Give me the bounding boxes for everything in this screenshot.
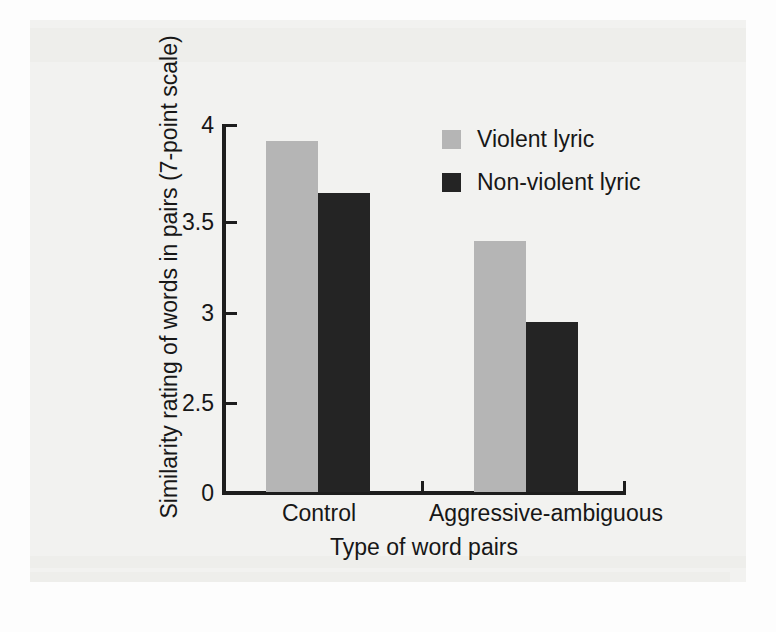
y-axis-title: Similarity rating of words in pairs (7-p…: [156, 99, 183, 519]
x-tick-end: [623, 481, 626, 492]
legend-label-nonviolent-lyric: Non-violent lyric: [477, 169, 641, 196]
y-tick-label-2-5-text: 2.5: [182, 390, 214, 417]
legend: Violent lyric Non-violent lyric: [442, 124, 641, 210]
bar-control-violent-lyric: [266, 141, 318, 492]
x-axis-title: Type of word pairs: [222, 534, 626, 561]
legend-item-nonviolent-lyric: Non-violent lyric: [442, 167, 641, 197]
legend-swatch-violent-lyric: [442, 130, 461, 149]
y-tick-label-3-text: 3: [201, 300, 214, 327]
y-axis-line: [222, 124, 226, 495]
bar-control-nonviolent-lyric: [318, 193, 370, 492]
y-tick-3-5: [226, 221, 237, 224]
x-category-label-aggressive-ambiguous: Aggressive-ambiguous: [408, 500, 684, 527]
scanned-figure-page: 4 3.5 3 2.5 0 Control Aggressive-ambiguo…: [0, 0, 776, 632]
y-tick-label-0-text: 0: [201, 480, 214, 507]
x-category-label-control: Control: [234, 500, 404, 527]
y-tick-2-5: [226, 402, 237, 405]
bar-chart: 4 3.5 3 2.5 0 Control Aggressive-ambiguo…: [0, 0, 776, 632]
y-tick-4: [226, 124, 237, 127]
legend-label-violent-lyric: Violent lyric: [477, 126, 594, 153]
bar-aggressive-ambiguous-violent-lyric: [474, 241, 526, 492]
y-tick-3: [226, 312, 237, 315]
bar-aggressive-ambiguous-nonviolent-lyric: [526, 322, 578, 492]
legend-swatch-nonviolent-lyric: [442, 173, 461, 192]
y-tick-label-3-5-text: 3.5: [182, 209, 214, 236]
y-tick-label-4-text: 4: [201, 112, 214, 139]
legend-item-violent-lyric: Violent lyric: [442, 124, 641, 154]
x-tick-group-separator: [421, 481, 424, 492]
